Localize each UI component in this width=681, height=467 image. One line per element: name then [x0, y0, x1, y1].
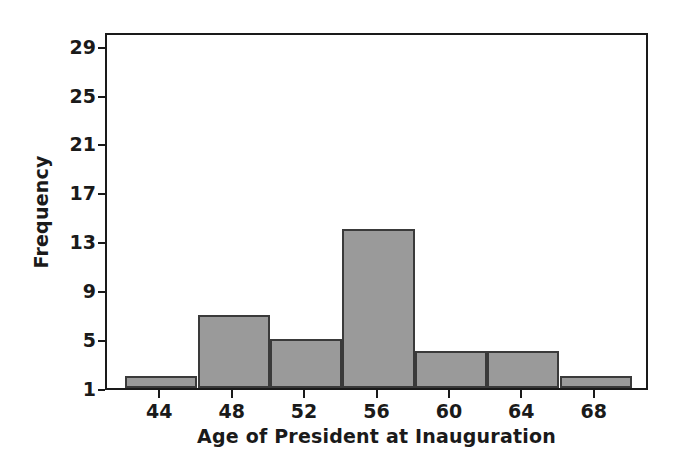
x-tick-label: 64	[491, 400, 551, 422]
x-tick-label: 52	[274, 400, 334, 422]
y-tick-mark	[98, 340, 105, 342]
histogram-bar	[560, 376, 632, 388]
x-tick-mark	[448, 390, 450, 398]
histogram-bar	[342, 229, 414, 388]
histogram-bar	[487, 351, 559, 388]
histogram-bar	[415, 351, 487, 388]
y-tick-label: 21	[56, 135, 96, 154]
y-tick-mark	[98, 242, 105, 244]
y-tick-label: 17	[56, 184, 96, 203]
x-tick-mark	[231, 390, 233, 398]
x-tick-label: 44	[129, 400, 189, 422]
y-tick-mark	[98, 144, 105, 146]
x-tick-mark	[376, 390, 378, 398]
bar-series	[107, 35, 646, 388]
histogram-figure: Frequency 1591317212529 44485256606468 A…	[0, 0, 681, 467]
y-tick-label: 9	[56, 282, 96, 301]
y-tick-label: 1	[56, 380, 96, 399]
x-tick-label: 60	[419, 400, 479, 422]
y-tick-mark	[98, 47, 105, 49]
x-axis-title: Age of President at Inauguration	[105, 425, 648, 447]
x-tick-label: 68	[564, 400, 624, 422]
y-tick-mark	[98, 389, 105, 391]
x-tick-mark	[158, 390, 160, 398]
x-tick-label: 56	[347, 400, 407, 422]
y-tick-label: 25	[56, 87, 96, 106]
x-axis-ticks: 44485256606468	[105, 390, 648, 400]
histogram-bar	[198, 315, 270, 388]
x-tick-label: 48	[202, 400, 262, 422]
y-tick-label: 29	[56, 38, 96, 57]
y-tick-mark	[98, 96, 105, 98]
y-tick-mark	[98, 193, 105, 195]
plot-area	[105, 33, 648, 390]
y-tick-label: 5	[56, 331, 96, 350]
y-tick-label: 13	[56, 233, 96, 252]
y-axis-ticks: 1591317212529	[48, 0, 96, 467]
histogram-bar	[125, 376, 197, 388]
histogram-bar	[270, 339, 342, 388]
x-tick-mark	[303, 390, 305, 398]
x-tick-mark	[520, 390, 522, 398]
y-tick-mark	[98, 291, 105, 293]
x-tick-mark	[593, 390, 595, 398]
